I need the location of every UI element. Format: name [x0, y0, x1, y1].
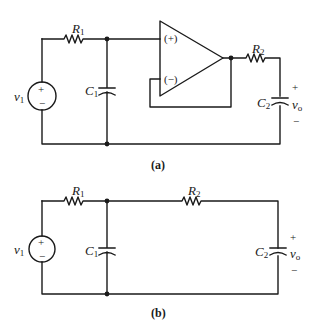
output-label: vo: [292, 98, 302, 113]
figure-caption-a: (a): [151, 158, 165, 173]
source-label: v1: [14, 243, 24, 258]
circuit-b: [29, 197, 286, 296]
source-plus: +: [38, 84, 44, 95]
node-dot: [105, 199, 110, 204]
node-dot: [105, 292, 110, 297]
output-label: vo: [290, 247, 300, 262]
opamp-noninverting-label: (+): [164, 33, 178, 44]
output-plus: +: [292, 82, 298, 93]
c1-label: C1: [85, 244, 98, 259]
r1-label: R1: [72, 184, 84, 199]
source-label: v1: [14, 90, 24, 105]
r2-label: R2: [252, 42, 264, 57]
r1-label: R1: [72, 22, 84, 37]
circuit-figure: v1 + − R1 C1 (+) (−) R2 C2 + vo − (a) v1…: [0, 0, 318, 324]
circuit-a: [28, 21, 288, 146]
node-dot: [105, 37, 110, 42]
node-dot: [105, 142, 110, 147]
opamp-inverting-label: (−): [164, 74, 178, 85]
source-minus: −: [39, 98, 45, 109]
capacitor-c1-icon: [99, 201, 115, 294]
resistors-r1-r2-icon: [42, 197, 278, 248]
capacitor-c2-icon: [270, 248, 286, 255]
output-plus: +: [290, 232, 296, 243]
node-dot: [229, 56, 234, 61]
c2-label: C2: [257, 96, 270, 111]
figure-caption-b: (b): [151, 306, 166, 321]
source-plus: +: [38, 237, 44, 248]
output-minus: −: [291, 265, 297, 276]
resistor-r1-icon: [42, 35, 160, 43]
source-minus: −: [39, 251, 45, 262]
r2-label: R2: [188, 184, 200, 199]
capacitor-c1-icon: [99, 39, 115, 144]
output-minus: −: [293, 116, 299, 127]
c2-label: C2: [255, 245, 268, 260]
c1-label: C1: [85, 84, 98, 99]
capacitor-c2-icon: [272, 98, 288, 105]
